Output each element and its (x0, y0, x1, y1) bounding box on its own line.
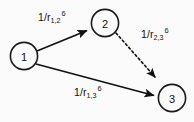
graph-canvas: 1 2 3 (0, 0, 194, 122)
edge-label-r13-superscript: 6 (98, 84, 102, 93)
edge-label-r13-base: 1/r (74, 86, 87, 98)
edge-label-r12-base: 1/r (38, 11, 51, 23)
edge-label-r13-subscript: 1,3 (87, 91, 97, 100)
edge-1-to-2 (37, 31, 87, 52)
node-1-label: 1 (21, 51, 27, 63)
energy-transfer-diagram: 1 2 3 1/r1,26 1/r2,36 1/r1,36 (0, 0, 194, 122)
edge-label-r12-subscript: 1,2 (51, 16, 61, 25)
edge-label-r23: 1/r2,36 (141, 29, 168, 40)
node-2-label: 2 (102, 18, 108, 30)
node-3-label: 3 (169, 93, 175, 105)
edge-label-r12: 1/r1,26 (38, 12, 65, 23)
edge-label-r13: 1/r1,36 (74, 87, 101, 98)
edge-label-r23-base: 1/r (141, 28, 154, 40)
edge-label-r23-subscript: 2,3 (154, 33, 164, 42)
edge-label-r12-superscript: 6 (62, 9, 66, 18)
edge-label-r23-superscript: 6 (165, 26, 169, 35)
